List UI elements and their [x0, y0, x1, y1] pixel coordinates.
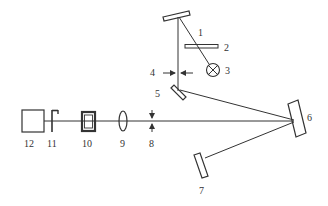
plate-2: [185, 45, 218, 49]
label-8: 8: [149, 138, 154, 149]
beam-5-to-6: [180, 90, 294, 120]
beam-lamp: [179, 17, 209, 64]
label-4: 4: [150, 67, 155, 78]
label-3: 3: [225, 65, 230, 76]
label-12: 12: [24, 138, 34, 149]
mirror-7: [194, 153, 208, 178]
label-6: 6: [307, 112, 312, 123]
label-7: 7: [199, 185, 204, 196]
mirror-1: [163, 11, 190, 21]
label-2: 2: [224, 42, 229, 53]
label-5: 5: [155, 88, 160, 99]
optical-diagram: 1 2 3 4 5 6 7 8 9 10 11 12: [0, 0, 328, 206]
mirror-6: [288, 100, 306, 137]
beam-6-to-7: [205, 122, 294, 158]
lamp-icon: [207, 64, 220, 77]
label-10: 10: [82, 138, 92, 149]
label-11: 11: [47, 138, 57, 149]
label-9: 9: [120, 138, 125, 149]
detector-12: [22, 110, 44, 132]
label-1: 1: [198, 27, 203, 38]
